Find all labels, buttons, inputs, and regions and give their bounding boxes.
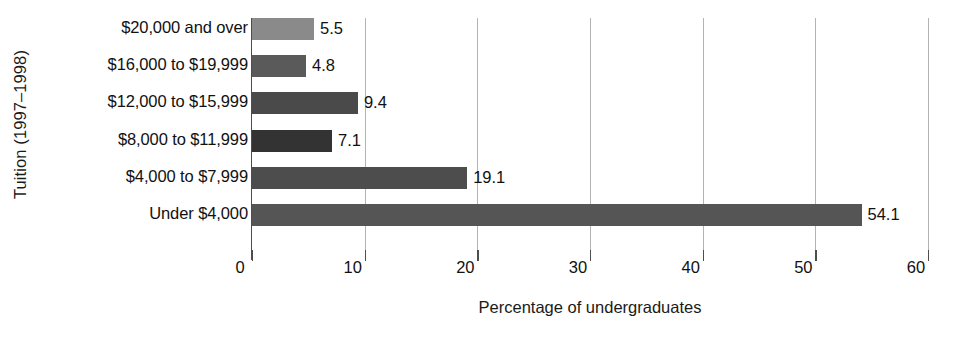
bar [252, 18, 314, 40]
bar [252, 204, 862, 226]
bar [252, 167, 467, 189]
category-label: $20,000 and over [50, 18, 248, 37]
x-axis-tick [477, 250, 478, 261]
bar-value-label: 9.4 [364, 91, 387, 113]
category-label: $16,000 to $19,999 [50, 55, 248, 74]
category-label: $8,000 to $11,999 [50, 130, 248, 149]
category-label: $12,000 to $15,999 [50, 92, 248, 111]
plot-area: 5.54.89.47.119.154.1 [252, 18, 928, 250]
x-axis-tick-label: 30 [569, 258, 587, 277]
x-axis-tick-label: 60 [907, 258, 925, 277]
x-axis-tick-label: 0 [235, 258, 244, 277]
gridline [928, 18, 929, 250]
bar [252, 92, 358, 114]
bar-value-label: 54.1 [868, 203, 900, 225]
x-axis-title: Percentage of undergraduates [252, 298, 928, 317]
x-axis-tick [590, 250, 591, 261]
x-axis-tick-label: 20 [456, 258, 474, 277]
bar-chart-figure: Tuition (1997–1998) $20,000 and over$16,… [0, 0, 958, 348]
x-axis-tick-label: 50 [794, 258, 812, 277]
x-axis-tick [252, 250, 253, 261]
y-axis-title-text: Tuition (1997–1998) [11, 50, 30, 199]
x-axis-tick [815, 250, 816, 261]
category-label: $4,000 to $7,999 [50, 167, 248, 186]
bar [252, 130, 332, 152]
x-axis-tick [928, 250, 929, 261]
bar-value-label: 19.1 [473, 166, 505, 188]
x-axis-tick-label: 10 [343, 258, 361, 277]
bar-value-label: 7.1 [338, 129, 361, 151]
category-label-group: $20,000 and over$16,000 to $19,999$12,00… [50, 14, 248, 240]
category-label: Under $4,000 [50, 204, 248, 223]
x-axis-tick [703, 250, 704, 261]
bar [252, 55, 306, 77]
bar-value-label: 5.5 [320, 17, 343, 39]
x-axis-tick-label: 40 [681, 258, 699, 277]
bar-value-label: 4.8 [312, 54, 335, 76]
x-axis-tick [365, 250, 366, 261]
y-axis-title: Tuition (1997–1998) [0, 0, 40, 248]
